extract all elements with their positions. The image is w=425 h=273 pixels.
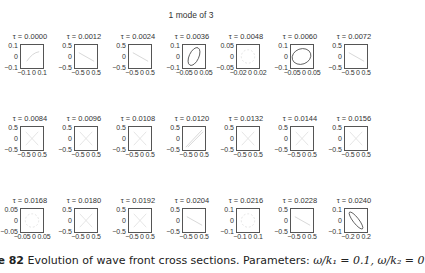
subplot-title: τ = 0.0156 [334, 114, 374, 123]
ytick-mid: 0 [160, 135, 180, 142]
figure-caption: re 82 Evolution of wave front cross sect… [0, 254, 425, 267]
ytick-top: 0.1 [268, 42, 288, 49]
ytick-top: 0.5 [322, 42, 342, 49]
ytick-top: 0.5 [106, 206, 126, 213]
subplot-title: τ = 0.0084 [10, 114, 50, 123]
ytick-top: 0.5 [106, 42, 126, 49]
ytick-top: 0.5 [160, 206, 180, 213]
subplot-axes [290, 44, 314, 69]
subplot-panel: τ = 0.00360.10−0.1−0.05 0 0.05 [162, 32, 216, 96]
xtick-labels: −0.5 0 0.5 [336, 69, 376, 76]
subplot-panel: τ = 0.00000.10−0.1−0.1 0 0.1 [0, 32, 54, 96]
ytick-mid: 0 [268, 217, 288, 224]
ytick-mid: 0 [268, 53, 288, 60]
subplot-axes [290, 126, 314, 151]
ytick-top: 0.5 [160, 124, 180, 131]
subplot-title: τ = 0.0072 [334, 32, 374, 41]
caption-label: re 82 [0, 254, 24, 267]
subplot-axes [182, 126, 206, 151]
xtick-labels: −0.5 0 0.5 [120, 151, 160, 158]
subplot-title: τ = 0.0012 [64, 32, 104, 41]
xtick-labels: −0.5 0 0.5 [12, 151, 52, 158]
subplot-title: τ = 0.0108 [118, 114, 158, 123]
subplot-title: τ = 0.0120 [172, 114, 212, 123]
subplot-axes [182, 208, 206, 233]
subplot-panel: τ = 0.01080.50−0.5−0.5 0 0.5 [108, 114, 162, 178]
caption-text: Evolution of wave front cross sections. … [28, 254, 310, 267]
subplot-axes [20, 208, 44, 233]
xtick-labels: −0.5 0 0.5 [174, 151, 214, 158]
subplot-axes [236, 44, 260, 69]
xtick-labels: −0.5 0 0.5 [66, 151, 106, 158]
xtick-labels: −0.2 0 0.2 [336, 233, 376, 240]
figure-suptitle: 1 mode of 3 [0, 10, 382, 20]
ytick-mid: 0 [52, 135, 72, 142]
subplot-title: τ = 0.0216 [226, 196, 266, 205]
caption-params: ω/k₁ = 0.1, ω/k₂ = 0 [313, 254, 424, 267]
subplot-panel: τ = 0.01440.50−0.5−0.5 0 0.5 [270, 114, 324, 178]
xtick-labels: −0.5 0 0.5 [228, 151, 268, 158]
subplot-title: τ = 0.0132 [226, 114, 266, 123]
subplot-axes [128, 44, 152, 69]
ytick-mid: 0 [106, 217, 126, 224]
subplot-title: τ = 0.0000 [10, 32, 50, 41]
subplot-axes [20, 126, 44, 151]
subplot-panel: τ = 0.00720.50−0.5−0.5 0 0.5 [324, 32, 378, 96]
ytick-mid: 0 [160, 53, 180, 60]
subplot-title: τ = 0.0024 [118, 32, 158, 41]
ytick-top: 0.5 [0, 124, 18, 131]
subplot-axes [20, 44, 44, 69]
subplot-axes [74, 44, 98, 69]
ytick-top: 0.1 [322, 206, 342, 213]
xtick-labels: −0.5 0 0.5 [282, 151, 322, 158]
subplot-panel: τ = 0.01560.50−0.5−0.5 0 0.5 [324, 114, 378, 178]
ytick-top: 0.5 [268, 206, 288, 213]
xtick-labels: −0.1 0 0.1 [228, 233, 268, 240]
subplot-axes [344, 208, 368, 233]
ytick-top: 0.1 [0, 42, 18, 49]
subplot-axes [344, 44, 368, 69]
subplot-panel: τ = 0.00240.50−0.5−0.5 0 0.5 [108, 32, 162, 96]
subplot-title: τ = 0.0192 [118, 196, 158, 205]
ytick-mid: 0 [322, 217, 342, 224]
ytick-mid: 0 [106, 53, 126, 60]
xtick-labels: −0.5 0 0.5 [120, 233, 160, 240]
subplot-title: τ = 0.0048 [226, 32, 266, 41]
ytick-mid: 0 [0, 217, 18, 224]
xtick-labels: −0.02 0 0.02 [228, 69, 268, 76]
ytick-top: 0.5 [52, 206, 72, 213]
subplot-title: τ = 0.0228 [280, 196, 320, 205]
subplot-panel: τ = 0.00120.50−0.5−0.5 0 0.5 [54, 32, 108, 96]
subplot-panel: τ = 0.01920.50−0.5−0.5 0 0.5 [108, 196, 162, 260]
ytick-top: 0.1 [160, 42, 180, 49]
subplot-axes [74, 208, 98, 233]
ytick-mid: 0 [0, 135, 18, 142]
ytick-mid: 0 [52, 217, 72, 224]
subplot-title: τ = 0.0036 [172, 32, 212, 41]
subplot-title: τ = 0.0168 [10, 196, 50, 205]
xtick-labels: −0.5 0 0.5 [336, 151, 376, 158]
xtick-labels: −0.5 0 0.5 [282, 233, 322, 240]
ytick-mid: 0 [214, 135, 234, 142]
subplot-title: τ = 0.0240 [334, 196, 374, 205]
subplot-panel: τ = 0.00480.050−0.05−0.02 0 0.02 [216, 32, 270, 96]
xtick-labels: −0.05 0 0.05 [12, 233, 52, 240]
xtick-labels: −0.5 0 0.5 [120, 69, 160, 76]
ytick-top: 0.5 [106, 124, 126, 131]
subplot-axes [236, 126, 260, 151]
subplot-title: τ = 0.0096 [64, 114, 104, 123]
ytick-top: 0.5 [322, 124, 342, 131]
subplot-axes [290, 208, 314, 233]
ytick-top: 0.5 [214, 124, 234, 131]
xtick-labels: −0.5 0 0.5 [174, 233, 214, 240]
ytick-mid: 0 [214, 53, 234, 60]
ytick-mid: 0 [322, 135, 342, 142]
ytick-mid: 0 [214, 217, 234, 224]
subplot-panel: τ = 0.00840.50−0.5−0.5 0 0.5 [0, 114, 54, 178]
ytick-mid: 0 [268, 135, 288, 142]
subplot-axes [74, 126, 98, 151]
subplot-axes [128, 126, 152, 151]
subplot-panel: τ = 0.00960.50−0.5−0.5 0 0.5 [54, 114, 108, 178]
ytick-top: 0.05 [0, 206, 18, 213]
subplot-title: τ = 0.0180 [64, 196, 104, 205]
